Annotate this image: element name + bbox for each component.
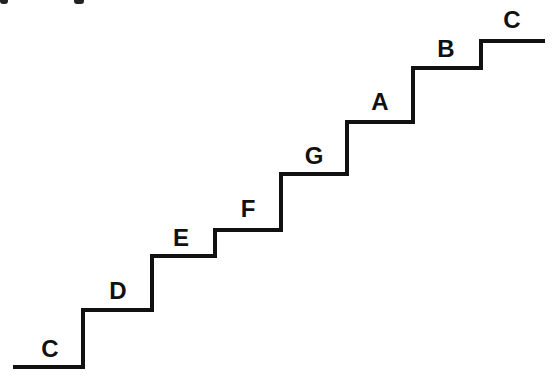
step-label-e: E bbox=[173, 226, 189, 250]
step-label-a: A bbox=[371, 90, 388, 114]
step-label-g: G bbox=[305, 144, 324, 168]
staircase-diagram: C D E F G A B C bbox=[0, 0, 553, 376]
step-label-c-high: C bbox=[503, 8, 520, 32]
staircase-line bbox=[0, 0, 553, 376]
step-label-b: B bbox=[437, 37, 454, 61]
step-label-d: D bbox=[109, 279, 126, 303]
step-label-c-low: C bbox=[41, 337, 58, 361]
step-label-f: F bbox=[241, 197, 256, 221]
